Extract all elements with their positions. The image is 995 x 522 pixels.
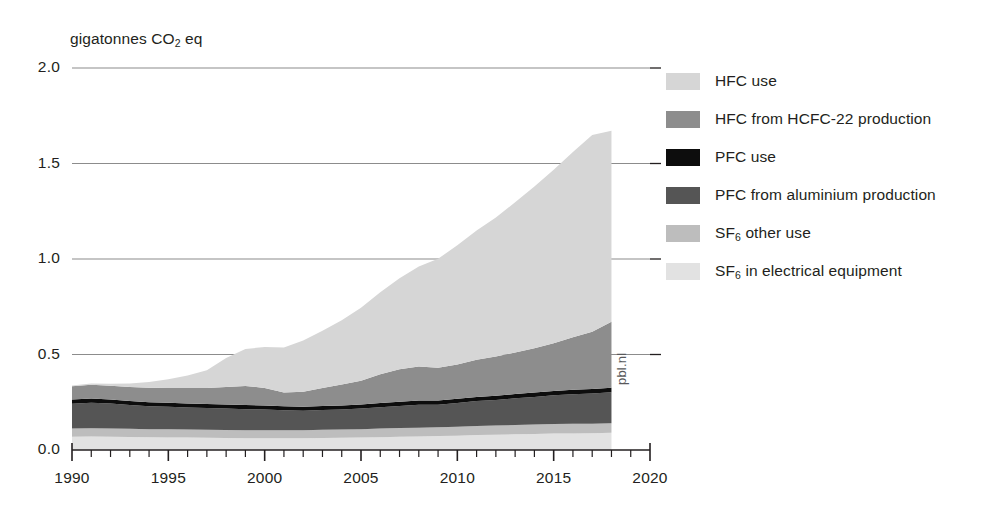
legend-label-subscript: 6 bbox=[735, 269, 741, 281]
legend-item[interactable]: PFC use bbox=[666, 138, 986, 176]
legend-label-subscript: 6 bbox=[735, 231, 741, 243]
chart-figure: gigatonnes CO2 eq 0.00.51.01.52.0 199019… bbox=[0, 0, 995, 522]
legend-label: PFC use bbox=[715, 148, 776, 166]
y-tick-label: 1.0 bbox=[14, 249, 60, 267]
legend-label: PFC from aluminium production bbox=[715, 186, 936, 204]
x-tick-label: 1990 bbox=[37, 469, 107, 487]
y-tick-label: 0.5 bbox=[14, 345, 60, 363]
legend-swatch-icon bbox=[666, 187, 700, 204]
x-tick-label: 1995 bbox=[133, 469, 203, 487]
legend-label: HFC from HCFC-22 production bbox=[715, 110, 931, 128]
legend-swatch-icon bbox=[666, 225, 700, 242]
legend-label-post: other use bbox=[741, 224, 811, 241]
y-tick-label: 0.0 bbox=[14, 440, 60, 458]
legend-swatch-icon bbox=[666, 263, 700, 280]
legend-label-pre: SF bbox=[715, 262, 735, 279]
pbl-watermark: pbl.nl bbox=[614, 353, 629, 385]
legend-label: SF6 other use bbox=[715, 224, 811, 242]
legend-swatch-icon bbox=[666, 111, 700, 128]
x-tick-label: 2020 bbox=[615, 469, 685, 487]
legend-item[interactable]: SF6 other use bbox=[666, 214, 986, 252]
x-tick-label: 2005 bbox=[326, 469, 396, 487]
y-tick-label: 2.0 bbox=[14, 58, 60, 76]
legend-label: HFC use bbox=[715, 72, 777, 90]
x-tick-label: 2015 bbox=[519, 469, 589, 487]
x-tick-label: 2000 bbox=[230, 469, 300, 487]
legend-item[interactable]: PFC from aluminium production bbox=[666, 176, 986, 214]
y-tick-label: 1.5 bbox=[14, 154, 60, 172]
legend-item[interactable]: HFC use bbox=[666, 62, 986, 100]
legend-item[interactable]: SF6 in electrical equipment bbox=[666, 252, 986, 290]
x-tick-label: 2010 bbox=[422, 469, 492, 487]
legend-label-post: in electrical equipment bbox=[741, 262, 902, 279]
legend-swatch-icon bbox=[666, 149, 700, 166]
legend-item[interactable]: HFC from HCFC-22 production bbox=[666, 100, 986, 138]
legend-swatch-icon bbox=[666, 73, 700, 90]
legend-label-pre: SF bbox=[715, 224, 735, 241]
legend-label: SF6 in electrical equipment bbox=[715, 262, 902, 280]
chart-legend: HFC useHFC from HCFC-22 productionPFC us… bbox=[666, 62, 986, 290]
